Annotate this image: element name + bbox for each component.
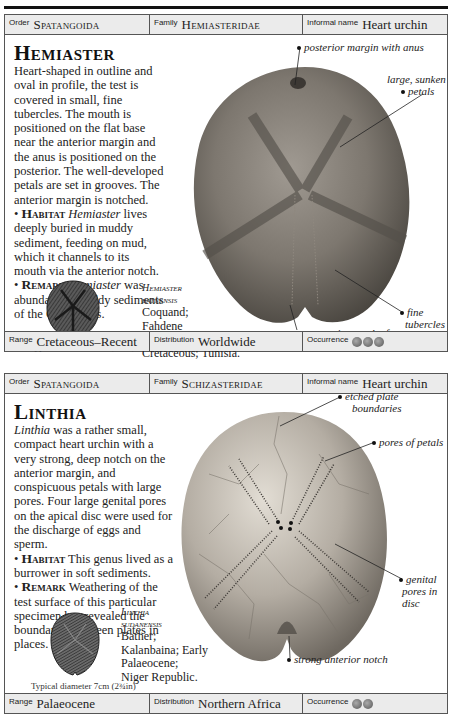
description: was a rather small, compact heart urchin… (14, 423, 172, 551)
informal-name-value: Heart urchin (362, 17, 427, 33)
distribution-label: Distribution (154, 697, 194, 706)
range-label: Range (9, 697, 33, 706)
fossil-photo-hemiaster (180, 55, 420, 335)
distribution-cell: Distribution Northern Africa (150, 694, 303, 713)
order-value: Spatangoida (33, 376, 99, 392)
entry-hemiaster: Order Spatangoida Family Hemiasteridae I… (4, 14, 448, 352)
distribution-cell: Distribution Worldwide (150, 332, 303, 351)
occurrence-icon (363, 699, 373, 709)
occurrence-cell: Occurrence (303, 694, 447, 713)
annotation-posterior-margin: posterior margin with anus (297, 41, 424, 53)
annotation-strong-anterior-notch: strong anterior notch (287, 653, 388, 665)
annotation-sunken-petals-line2: petals (401, 85, 434, 97)
bullet-dot-icon (399, 578, 403, 582)
occurrence-icon (352, 337, 362, 347)
distribution-value: Worldwide (198, 334, 255, 350)
remark-label: Remark (22, 579, 66, 594)
description: Heart-shaped in outline and oval in prof… (14, 64, 164, 207)
range-cell: Range Cretaceous–Recent (5, 332, 150, 351)
order-label: Order (9, 18, 29, 27)
annotation-fine-tubercles-line2: tubercles (405, 318, 445, 330)
family-label: Family (154, 377, 178, 386)
habitat-label: Habitat (22, 551, 66, 566)
habitat-paragraph: • Habitat Hemiaster lives deeply buried … (14, 207, 164, 278)
order-cell: Order Spatangoida (5, 374, 150, 393)
occurrence-icon (352, 699, 362, 709)
habitat-paragraph: • Habitat This genus lived as a burrower… (14, 552, 174, 581)
annotation-genital-pores-line3: disc (402, 597, 420, 609)
range-label: Range (9, 335, 33, 344)
family-value: Hemiasteridae (182, 17, 260, 33)
range-cell: Range Palaeocene (5, 694, 150, 713)
occurrence-icon (363, 337, 373, 347)
annotation-sunken-petals-line1: large, sunken (387, 73, 446, 85)
informal-name-cell: Informal name Heart urchin (303, 15, 447, 34)
occurrence-label: Occurrence (307, 697, 348, 706)
bullet-dot-icon (400, 311, 404, 315)
range-bar: Range Palaeocene Distribution Northern A… (5, 693, 447, 713)
informal-name-label: Informal name (307, 377, 358, 386)
family-cell: Family Hemiasteridae (150, 15, 303, 34)
genus-title: Hemiaster (14, 41, 115, 66)
classification-bar: Order Spatangoida Family Hemiasteridae I… (5, 15, 447, 35)
order-label: Order (9, 377, 29, 386)
bullet-dot-icon (338, 395, 342, 399)
occurrence-label: Occurrence (307, 335, 348, 344)
fossil-photo-linthia (169, 404, 399, 674)
family-value: Schizasteridae (182, 376, 263, 392)
bullet-dot-icon (401, 90, 405, 94)
annotation-genital-pores-line1: genital (399, 573, 437, 585)
page-top-rule (4, 6, 448, 9)
bullet-dot-icon (297, 46, 301, 50)
annotation-genital-pores-line2: pores in (402, 585, 437, 597)
annotation-fine-tubercles-line1: fine (400, 306, 424, 318)
habitat-label: Habitat (22, 206, 66, 221)
range-value: Palaeocene (37, 696, 95, 712)
occurrence-cell: Occurrence (303, 332, 447, 351)
occurrence-icon (374, 337, 384, 347)
annotation-etched-plate-line2: boundaries (352, 402, 402, 414)
thumbnail-illustration (49, 610, 101, 678)
genus-title: Linthia (14, 400, 87, 425)
entry-linthia: Order Spatangoida Family Schizasteridae … (4, 373, 448, 714)
range-value: Cretaceous–Recent (37, 334, 137, 350)
annotation-pores-of-petals: pores of petals (372, 436, 443, 448)
bullet-dot-icon (287, 658, 291, 662)
description-paragraph: Linthia was a rather small, compact hear… (14, 423, 174, 552)
order-cell: Order Spatangoida (5, 15, 150, 34)
description-genus: Linthia (14, 423, 50, 437)
informal-name-label: Informal name (307, 18, 358, 27)
family-cell: Family Schizasteridae (150, 374, 303, 393)
order-value: Spatangoida (33, 17, 99, 33)
distribution-value: Northern Africa (198, 696, 281, 712)
distribution-label: Distribution (154, 335, 194, 344)
family-label: Family (154, 18, 178, 27)
bullet-dot-icon (372, 441, 376, 445)
habitat-genus: Hemiaster (68, 207, 120, 221)
range-bar: Range Cretaceous–Recent Distribution Wor… (5, 331, 447, 351)
annotation-etched-plate-line1: etched plate (338, 390, 398, 402)
